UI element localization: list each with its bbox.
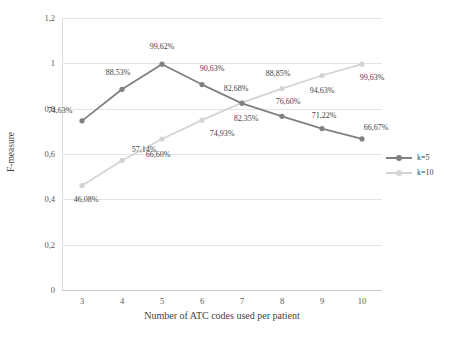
data-point <box>319 73 324 78</box>
data-point <box>359 136 364 141</box>
x-tick-label: 8 <box>280 297 284 306</box>
series-line-k10 <box>82 64 362 185</box>
data-label: 74,93% <box>210 130 235 138</box>
y-tick-label: 0,6 <box>44 150 55 159</box>
data-label: 82,35% <box>234 115 259 123</box>
x-tick-label: 10 <box>358 297 367 306</box>
y-tick-label: 0,2 <box>44 240 55 249</box>
data-point <box>239 101 244 106</box>
x-tick-label: 3 <box>80 297 84 306</box>
data-point <box>119 158 124 163</box>
legend-item-k5[interactable]: k=5 <box>386 150 434 165</box>
data-label: 90,63% <box>200 65 225 73</box>
data-label: 66,67% <box>364 124 389 132</box>
data-point <box>319 126 324 131</box>
data-label: 88,53% <box>106 69 131 77</box>
data-label: 66,60% <box>146 151 171 159</box>
legend-swatch-k5 <box>386 153 412 163</box>
data-point <box>119 87 124 92</box>
y-axis-title: F-measure <box>7 132 17 172</box>
y-tick-label: 0,4 <box>44 195 55 204</box>
data-point <box>359 62 364 67</box>
x-tick-label: 6 <box>200 297 204 306</box>
data-label: 99,62% <box>150 43 175 51</box>
data-label: 46,08% <box>74 196 99 204</box>
data-label: 99,63% <box>360 74 385 82</box>
x-axis-line <box>62 290 382 291</box>
legend-label-k10: k=10 <box>417 169 434 177</box>
data-label: 76,60% <box>276 98 301 106</box>
legend-item-k10[interactable]: k=10 <box>386 165 434 180</box>
y-tick-label: 1 <box>51 59 55 68</box>
data-label: 71,22% <box>312 112 337 120</box>
data-label: 88,85% <box>266 70 291 78</box>
data-point <box>79 183 84 188</box>
x-tick-label: 5 <box>160 297 164 306</box>
data-point <box>199 118 204 123</box>
legend-swatch-k10 <box>386 168 412 178</box>
plot-area: 00,20,40,60,811,234567891074,63%88,53%99… <box>62 18 382 290</box>
data-point <box>199 82 204 87</box>
data-point <box>279 86 284 91</box>
legend-label-k5: k=5 <box>417 154 430 162</box>
x-tick-label: 9 <box>320 297 324 306</box>
data-point <box>279 114 284 119</box>
data-point <box>159 62 164 67</box>
y-tick-label: 0 <box>51 286 55 295</box>
data-point <box>159 136 164 141</box>
y-tick-label: 1,2 <box>44 14 55 23</box>
x-axis-title: Number of ATC codes used per patient <box>62 311 382 321</box>
x-tick-label: 4 <box>120 297 124 306</box>
chart-figure: F-measure Number of ATC codes used per p… <box>0 0 466 344</box>
data-label: 94,63% <box>310 87 335 95</box>
data-label: 74,63% <box>48 107 73 115</box>
chart-legend: k=5 k=10 <box>386 150 434 180</box>
data-point <box>79 118 84 123</box>
x-tick-label: 7 <box>240 297 244 306</box>
data-label: 82,68% <box>224 85 249 93</box>
series-layer <box>62 18 382 290</box>
